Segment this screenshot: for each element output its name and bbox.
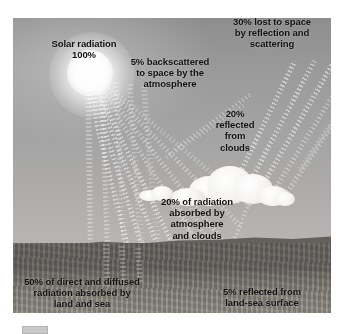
broken-image-placeholder bbox=[22, 326, 48, 334]
label-lost-to-space: 30% lost to space by reflection and scat… bbox=[209, 16, 335, 50]
label-absorbed-by-atmosphere: 20% of radiation absorbed by atmosphere … bbox=[141, 196, 253, 241]
label-absorbed-by-land-and-sea: 50% of direct and diffused radiation abs… bbox=[8, 276, 156, 310]
page-root: Solar radiation 100% 5% backscattered to… bbox=[0, 0, 338, 334]
label-reflected-from-clouds: 20% reflected from clouds bbox=[194, 108, 276, 153]
label-reflected-from-surface: 5% reflected from land-sea surface bbox=[196, 286, 328, 308]
label-backscattered-to-space: 5% backscattered to space by the atmosph… bbox=[110, 56, 230, 90]
